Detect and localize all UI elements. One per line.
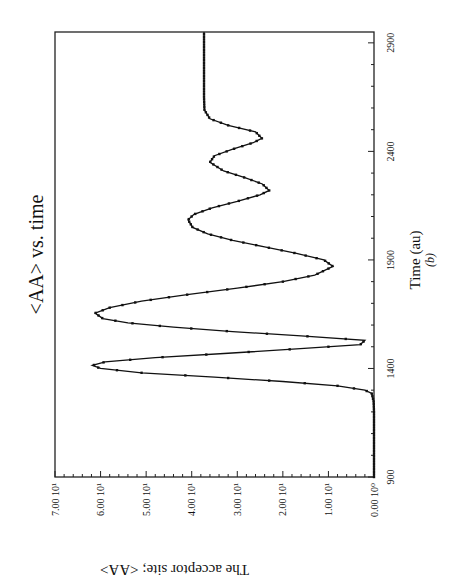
aa-series-markers (93, 33, 375, 478)
x-axis-label: Time (au) (407, 230, 424, 289)
value-tick-label: 1.00 10¹ (323, 483, 334, 516)
time-tick-label: 900 (385, 470, 396, 485)
value-tick-label: 0.00 10⁰ (369, 483, 380, 517)
value-tick-label: 4.00 10¹ (186, 483, 197, 516)
value-tick-label: 2.00 10¹ (277, 483, 288, 516)
value-tick-label: 6.00 10¹ (95, 483, 106, 516)
y-axis-label: The acceptor site; <AA> (100, 562, 249, 578)
rotated-chart: 9001400190024002900 0.00 10⁰1.00 10¹2.00… (25, 32, 437, 578)
aa-series-line (92, 32, 374, 477)
value-tick-label: 7.00 10¹ (50, 483, 61, 516)
value-axis-ticks (55, 471, 374, 477)
time-tick-label: 1900 (385, 250, 396, 270)
figure-panel-label: (b) (423, 253, 437, 267)
value-axis-tick-labels: 0.00 10⁰1.00 10¹2.00 10¹3.00 10¹4.00 10¹… (50, 483, 380, 517)
time-tick-label: 1400 (385, 358, 396, 378)
plot-frame (55, 32, 374, 477)
chart-title: <AA> vs. time (25, 194, 47, 314)
value-tick-label: 5.00 10¹ (141, 483, 152, 516)
time-tick-label: 2900 (385, 33, 396, 53)
time-tick-label: 2400 (385, 141, 396, 161)
time-axis-tick-labels: 9001400190024002900 (385, 33, 396, 485)
chart-figure: 9001400190024002900 0.00 10⁰1.00 10¹2.00… (0, 0, 454, 584)
value-tick-label: 3.00 10¹ (232, 483, 243, 516)
